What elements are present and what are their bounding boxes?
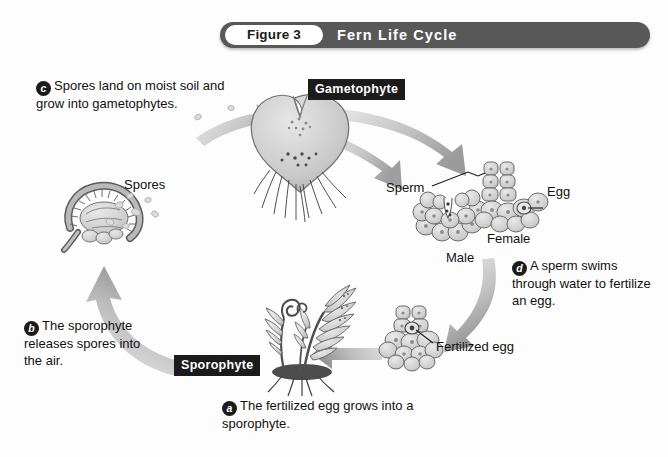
part-label-male: Male <box>446 250 474 265</box>
fern-life-cycle-figure: Figure 3 Fern Life Cycle Gametophyte Spo… <box>0 0 668 457</box>
sporangium-illustration <box>64 186 140 250</box>
stage-label-gametophyte: Gametophyte <box>308 79 405 100</box>
part-label-sperm: Sperm <box>386 180 424 195</box>
figure-title: Fern Life Cycle <box>337 25 457 45</box>
callout-badge-a: a <box>222 401 237 416</box>
part-label-female: Female <box>487 231 530 246</box>
part-label-fertilized-egg: Fertilized egg <box>436 339 514 354</box>
spore-particles <box>105 105 234 229</box>
diagram-artwork <box>0 0 668 457</box>
gametophyte-prothallus-illustration <box>251 95 349 222</box>
callout-text-b: The sporophyte releases spores into the … <box>24 318 140 368</box>
callout-text-c: Spores land on moist soil and grow into … <box>36 78 225 111</box>
sperm-leader-line <box>432 172 478 186</box>
arrow-gametangia-to-fertilized-egg <box>444 258 496 352</box>
callout-text-d: A sperm swims through water to fertilize… <box>512 258 651 308</box>
sperm-leader-line-tail <box>478 171 498 176</box>
fern-sporophyte-illustration <box>265 285 356 396</box>
callout-badge-b: b <box>24 321 39 336</box>
arrow-gametophyte-to-female <box>330 108 466 176</box>
figure-banner: Figure 3 Fern Life Cycle <box>220 22 650 48</box>
callout-badge-c: c <box>36 81 51 96</box>
callout-b: bThe sporophyte releases spores into the… <box>24 318 154 369</box>
stage-label-sporophyte: Sporophyte <box>174 355 260 376</box>
callout-c: cSpores land on moist soil and grow into… <box>36 78 226 113</box>
callout-badge-d: d <box>512 261 527 276</box>
callout-text-a: The fertilized egg grows into a sporophy… <box>222 398 413 431</box>
part-label-spores: Spores <box>124 177 165 192</box>
callout-d: dA sperm swims through water to fertiliz… <box>512 258 662 309</box>
antheridium-illustration <box>413 190 487 241</box>
arrow-fertilized-egg-to-sporophyte <box>312 339 382 369</box>
figure-number-label: Figure 3 <box>225 25 323 45</box>
fertilized-egg-leader-line <box>416 330 433 343</box>
part-label-egg: Egg <box>547 184 570 199</box>
archegonium-illustration <box>475 162 548 232</box>
figure-number-pill: Figure 3 <box>225 25 323 45</box>
fertilized-egg-illustration <box>379 306 443 371</box>
callout-a: aThe fertilized egg grows into a sporoph… <box>222 398 422 433</box>
